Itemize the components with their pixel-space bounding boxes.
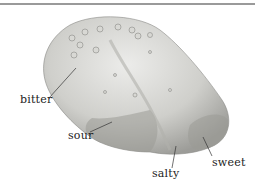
label-bitter: bitter bbox=[20, 94, 52, 105]
label-salty: salty bbox=[152, 168, 179, 179]
label-sweet: sweet bbox=[212, 157, 246, 168]
label-sour: sour bbox=[68, 130, 93, 141]
